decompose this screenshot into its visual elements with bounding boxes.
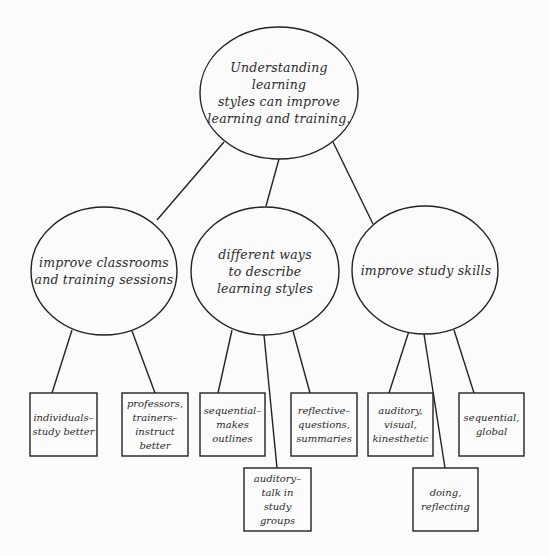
connector-b1-c2 bbox=[132, 331, 155, 393]
leaf-label-b1-c1: individuals– study better bbox=[30, 393, 97, 456]
leaf-label-b3-c1: auditory, visual, kinesthetic bbox=[368, 393, 433, 456]
leaf-label-b2-c3: reflective– questions, summaries bbox=[291, 393, 357, 456]
connector-b2-c3 bbox=[293, 331, 310, 393]
branch-1-label: improve classrooms and training sessions bbox=[34, 240, 174, 302]
leaf-label-b2-c1: sequential– makes outlines bbox=[200, 393, 265, 456]
connector-b2-c1 bbox=[218, 330, 232, 393]
connector-b2-c2 bbox=[264, 335, 277, 468]
connector-b1-c1 bbox=[52, 330, 72, 393]
connector-b3-c3 bbox=[454, 330, 474, 393]
leaf-label-b1-c2: professors, trainers– instruct better bbox=[122, 393, 188, 456]
root-node-label: Understanding learning styles can improv… bbox=[205, 55, 353, 131]
connector-b3-c1 bbox=[389, 331, 409, 393]
connector-root-branch-3 bbox=[333, 142, 373, 224]
leaf-label-b2-c2: auditory– talk in study groups bbox=[244, 468, 311, 531]
branch-3-label: improve study skills bbox=[355, 255, 497, 285]
connector-root-branch-2 bbox=[266, 159, 279, 206]
leaf-label-b3-c2: doing, reflecting bbox=[413, 468, 478, 531]
connector-root-branch-1 bbox=[157, 142, 224, 220]
leaf-label-b3-c3: sequential, global bbox=[459, 393, 524, 456]
branch-2-label: different ways to describe learning styl… bbox=[196, 236, 334, 306]
